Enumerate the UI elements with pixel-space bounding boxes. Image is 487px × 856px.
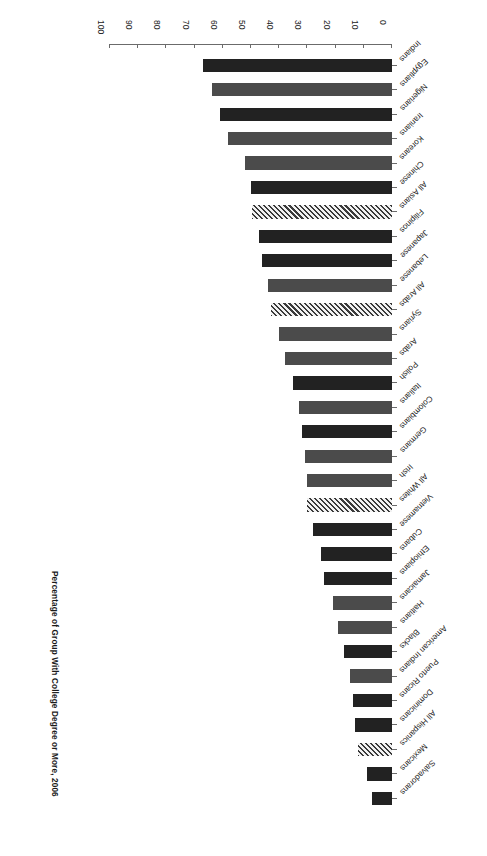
bar-row[interactable]: Puerto Ricans [110,689,392,711]
bar-row[interactable]: Jamaicans [110,592,392,614]
category-tick-mark [392,553,397,554]
bar-row[interactable]: Nigerians [110,103,392,125]
category-label: Arabs [398,336,419,357]
bar-row[interactable]: Blacks [110,641,392,663]
bar-row[interactable]: Vietnamese [110,518,392,540]
bar-row[interactable]: Salvadorans [110,787,392,809]
x-tick-mark [363,44,364,48]
bar[interactable] [252,205,392,218]
bar-row[interactable]: All Hispanics [110,738,392,760]
category-tick-mark [392,187,397,188]
category-tick-mark [392,773,397,774]
category-tick-mark [392,407,397,408]
bar[interactable] [350,669,392,682]
bar[interactable] [271,303,392,316]
bar-row[interactable]: Irish [110,470,392,492]
category-tick-mark [392,89,397,90]
category-tick-mark [392,602,397,603]
bar-row[interactable]: All Asians [110,201,392,223]
bar-row[interactable]: Iranians [110,128,392,150]
bar[interactable] [285,352,392,365]
category-tick-mark [392,260,397,261]
bar-row[interactable]: All Arabs [110,299,392,321]
bar[interactable] [344,645,392,658]
category-tick-mark [392,651,397,652]
bar[interactable] [333,596,392,609]
bar-row[interactable]: Syrians [110,323,392,345]
x-tick-mark [306,44,307,48]
bar-row[interactable]: Filipinos [110,225,392,247]
bar[interactable] [245,156,392,169]
category-tick-mark [392,431,397,432]
category-tick-mark [392,138,397,139]
bar[interactable] [322,547,393,560]
x-tick-mark [165,44,166,48]
category-label: Syrians [398,307,424,333]
bar-row[interactable]: American Indians [110,665,392,687]
bar-row[interactable]: Cubans [110,543,392,565]
bar-row[interactable]: Colombians [110,421,392,443]
x-tick-mark [278,44,279,48]
category-tick-mark [392,798,397,799]
bar[interactable] [299,401,392,414]
category-label: Koreans [398,134,426,162]
bar[interactable] [307,498,392,511]
bar[interactable] [203,59,392,72]
category-tick-mark [392,382,397,383]
bar-row[interactable]: Germans [110,445,392,467]
bar[interactable] [307,474,392,487]
bar-row[interactable]: Mexicans [110,763,392,785]
category-tick-mark [392,676,397,677]
bar[interactable] [220,108,392,121]
x-tick-mark [250,44,251,48]
x-tick-mark [335,44,336,48]
bar[interactable] [338,621,392,634]
bar[interactable] [324,572,392,585]
bar-row[interactable]: Dominicans [110,714,392,736]
category-tick-mark [392,211,397,212]
bar[interactable] [293,376,392,389]
bar[interactable] [372,792,392,805]
bar-row[interactable]: Indians [110,54,392,76]
bar-row[interactable]: Japanese [110,250,392,272]
x-tick-mark [391,44,392,48]
bar[interactable] [302,425,392,438]
bar[interactable] [313,523,392,536]
bar-row[interactable]: Arabs [110,347,392,369]
bar[interactable] [279,327,392,340]
category-label: Haitians [398,599,425,626]
bar[interactable] [358,743,392,756]
bar-row[interactable]: Italians [110,396,392,418]
bar[interactable] [259,230,392,243]
bar[interactable] [268,279,392,292]
bar[interactable] [355,718,392,731]
bar[interactable] [367,767,392,780]
bar[interactable] [305,450,392,463]
bar-row[interactable]: Chinese [110,176,392,198]
bar[interactable] [353,694,392,707]
bar[interactable] [212,83,392,96]
category-tick-mark [392,724,397,725]
category-tick-mark [392,334,397,335]
category-tick-mark [392,309,397,310]
x-tick-mark [222,44,223,48]
bar[interactable] [251,181,392,194]
category-tick-mark [392,700,397,701]
bar-row[interactable]: Haitians [110,616,392,638]
x-tick-label: 100 [96,20,106,60]
bar[interactable] [262,254,392,267]
category-tick-mark [392,163,397,164]
category-label: Iranians [398,110,425,137]
bar-row[interactable]: Egyptians [110,79,392,101]
category-tick-mark [392,480,397,481]
bar-row[interactable]: Lebanese [110,274,392,296]
category-tick-mark [392,114,397,115]
x-tick-mark [109,44,110,48]
bar-row[interactable]: All Whites [110,494,392,516]
bar-row[interactable]: Koreans [110,152,392,174]
category-tick-mark [392,236,397,237]
category-tick-mark [392,627,397,628]
bar[interactable] [228,132,392,145]
bar-row[interactable]: Ethiopians [110,567,392,589]
bar-row[interactable]: Polish [110,372,392,394]
